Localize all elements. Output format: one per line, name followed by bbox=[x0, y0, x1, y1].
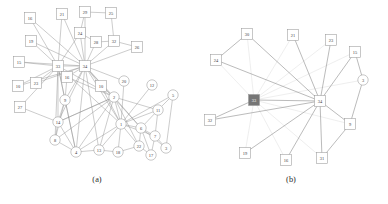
edge-faint bbox=[254, 52, 355, 100]
edge-faint bbox=[254, 80, 363, 100]
edge bbox=[85, 47, 137, 66]
edge bbox=[320, 40, 331, 101]
edge bbox=[293, 35, 320, 101]
edge bbox=[99, 97, 114, 150]
edge bbox=[121, 81, 124, 124]
edge bbox=[245, 101, 320, 153]
graph-node-label: 11 bbox=[156, 108, 160, 113]
graph-node-label: 32 bbox=[208, 118, 212, 123]
edge bbox=[58, 14, 62, 66]
edge bbox=[30, 18, 85, 66]
edge bbox=[166, 95, 173, 148]
edge bbox=[121, 95, 173, 124]
edge-faint bbox=[245, 100, 254, 153]
edge bbox=[350, 80, 363, 124]
edge-faint bbox=[247, 34, 254, 100]
edge-faint bbox=[254, 100, 286, 160]
graph-node-label: 1 bbox=[120, 122, 122, 127]
edge bbox=[247, 34, 320, 101]
edge bbox=[67, 77, 114, 97]
edge-faint bbox=[216, 60, 254, 100]
figure-container: 1621292524283219261533341023161020125921… bbox=[0, 0, 388, 204]
graph-node-label: 12 bbox=[150, 83, 154, 88]
edge bbox=[320, 101, 322, 158]
graph-node-label: 31 bbox=[320, 156, 324, 161]
edge-faint bbox=[254, 40, 331, 100]
panel-b: 302123152433334329191631(b) bbox=[205, 29, 369, 185]
panel-caption: (a) bbox=[92, 175, 102, 184]
edge bbox=[210, 100, 254, 120]
graph-node-label: 21 bbox=[291, 33, 295, 38]
graph-node-label: 21 bbox=[60, 12, 64, 17]
edge bbox=[320, 52, 355, 101]
edge bbox=[254, 100, 320, 101]
edge bbox=[216, 60, 320, 101]
panel-caption: (b) bbox=[286, 175, 296, 184]
graph-node-label: 2 bbox=[113, 95, 115, 100]
graph-node-label: 22 bbox=[137, 144, 141, 149]
panel-a: 1621292524283219261533341023161020125921… bbox=[13, 7, 179, 185]
edge bbox=[286, 101, 320, 160]
edge bbox=[114, 97, 158, 110]
edge bbox=[210, 101, 320, 120]
edge-faint bbox=[254, 35, 293, 100]
network-graph-figure: 1621292524283219261533341023161020125921… bbox=[0, 0, 388, 204]
edge bbox=[62, 14, 85, 66]
graph-node-label: 32 bbox=[112, 39, 116, 44]
